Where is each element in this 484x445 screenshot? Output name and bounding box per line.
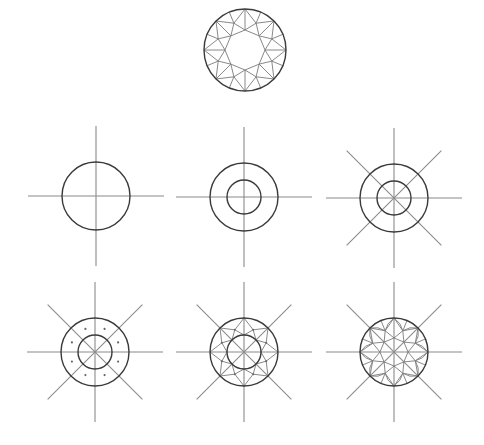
final-brilliant-cut-diagram bbox=[204, 9, 286, 91]
step-3-diagonal-guides bbox=[326, 128, 462, 268]
marked-point bbox=[71, 360, 73, 362]
step-1-circle-with-axes bbox=[28, 126, 164, 266]
step-2-inner-circle bbox=[176, 127, 312, 267]
marked-point bbox=[71, 341, 73, 343]
marked-point bbox=[117, 360, 119, 362]
gem-drawing-canvas bbox=[0, 0, 484, 445]
step-4-marked-points bbox=[27, 282, 163, 422]
marked-point bbox=[117, 341, 119, 343]
step-6-complete-facets bbox=[326, 282, 462, 422]
marked-point bbox=[84, 374, 86, 376]
marked-point bbox=[103, 374, 105, 376]
marked-point bbox=[84, 328, 86, 330]
marked-point bbox=[103, 328, 105, 330]
step-5-star-facets bbox=[176, 282, 312, 422]
